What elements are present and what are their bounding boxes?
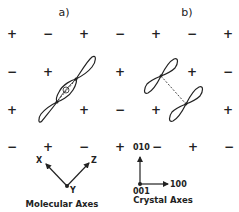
minus-sign: − bbox=[115, 27, 125, 41]
crystal-010-label: 010 bbox=[133, 143, 150, 152]
plus-sign: + bbox=[151, 103, 161, 117]
orbital-a-upper-lobe bbox=[76, 56, 95, 79]
plus-sign: + bbox=[79, 27, 89, 41]
plus-sign: + bbox=[7, 27, 17, 41]
minus-sign: − bbox=[43, 27, 53, 41]
molecular-axes: X Z Y Molecular Axes bbox=[26, 156, 99, 209]
orbital-a-bond-line bbox=[55, 77, 78, 104]
molecular-x-axis-arrow bbox=[46, 164, 67, 186]
panel-label-a: a) bbox=[58, 6, 69, 19]
minus-sign: − bbox=[187, 27, 197, 41]
molecular-x-label: X bbox=[36, 156, 43, 165]
crystal-axes-caption: Crystal Axes bbox=[133, 195, 193, 205]
sign-grid: +−+−+−+−+++−++−++−+−+−+− bbox=[7, 27, 234, 154]
crystal-axes: 010 100 001 Crystal Axes bbox=[133, 143, 193, 205]
orbital-b-upper-lobe-2 bbox=[145, 76, 162, 93]
orbital-b-lower-lobe-1 bbox=[186, 87, 203, 104]
orbital-a-node-lower bbox=[56, 101, 59, 104]
plus-sign: + bbox=[188, 140, 198, 154]
minus-sign: − bbox=[7, 140, 17, 154]
minus-sign: − bbox=[223, 65, 233, 79]
orbital-a-lower-lobe bbox=[39, 102, 57, 122]
molecular-axes-caption: Molecular Axes bbox=[26, 199, 99, 209]
molecular-z-label: Z bbox=[91, 156, 97, 165]
plus-sign: + bbox=[79, 103, 89, 117]
orbital-a-node-upper bbox=[75, 78, 78, 81]
molecular-y-label: Y bbox=[69, 186, 76, 195]
minus-sign: − bbox=[152, 140, 162, 154]
crystal-origin-dot bbox=[138, 182, 142, 186]
plus-sign: + bbox=[43, 65, 53, 79]
plus-sign: + bbox=[223, 103, 233, 117]
orbital-b-upper-lobe-1 bbox=[161, 59, 178, 76]
orbital-b-lower-lobe-2 bbox=[170, 104, 187, 121]
plus-sign: + bbox=[115, 65, 125, 79]
plus-sign: + bbox=[151, 27, 161, 41]
molecular-z-axis-arrow bbox=[67, 163, 89, 186]
minus-sign: − bbox=[7, 65, 17, 79]
crystal-100-label: 100 bbox=[170, 180, 187, 189]
plus-sign: + bbox=[187, 65, 197, 79]
minus-sign: − bbox=[115, 103, 125, 117]
plus-sign: + bbox=[223, 27, 233, 41]
plus-sign: + bbox=[115, 140, 125, 154]
diagram-canvas: a) b) +−+−+−+−+++−++−++−+−+−+− bbox=[0, 0, 239, 212]
minus-sign: − bbox=[79, 140, 89, 154]
plus-sign: + bbox=[7, 103, 17, 117]
molecular-y-axis-dot bbox=[65, 184, 69, 188]
orbital-b-bond-line bbox=[161, 76, 186, 104]
plus-sign: + bbox=[43, 140, 53, 154]
panel-label-b: b) bbox=[181, 6, 192, 19]
minus-sign: − bbox=[224, 140, 234, 154]
